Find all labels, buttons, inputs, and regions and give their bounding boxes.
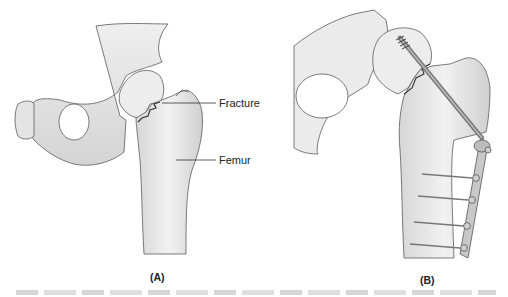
hip-fixation-illustration [254,0,508,297]
obturator-foramen [59,104,89,140]
figure-caption-cutoff [16,290,496,295]
panel-a-label: (A) [150,271,165,283]
femur-label: Femur [219,154,251,166]
panel-b-fixated-hip: (B) [254,0,508,297]
pubis-stub [15,101,34,139]
femur-bone [136,90,203,254]
hip-fracture-illustration [0,0,254,297]
panel-a-fractured-hip: Fracture Femur (A) [0,0,254,297]
femur-bone [399,58,490,258]
obturator-foramen [296,74,348,118]
panel-b-label: (B) [420,274,435,286]
